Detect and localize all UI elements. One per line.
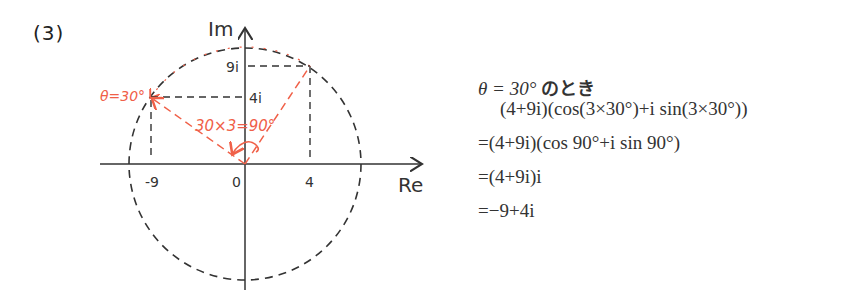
tick-label-origin: 0 — [232, 174, 241, 190]
vector-4-9i — [245, 66, 310, 164]
step-2: =(4+9i)(cos 90°+i sin 90°) — [478, 132, 680, 154]
tick-label-neg9: -9 — [145, 174, 159, 190]
rotation-annotation: 30×3=90° — [195, 117, 275, 135]
condition-heading: θ = 30° のとき — [478, 74, 595, 100]
step-4-result: =−9+4i — [478, 200, 534, 222]
condition-jp: のとき — [541, 78, 595, 99]
tick-label-4i: 4i — [249, 90, 262, 106]
axis-label-im: Im — [208, 17, 233, 41]
step-3: =(4+9i)i — [478, 166, 542, 188]
complex-plane-diagram: Im Re 9i 4i -9 0 4 θ=30° 30×3=90° — [0, 0, 842, 296]
axis-label-re: Re — [398, 173, 423, 197]
tick-label-9i: 9i — [226, 59, 239, 75]
step-1: (4+9i)(cos(3×30°)+i sin(3×30°)) — [500, 98, 747, 120]
theta-annotation: θ=30° — [100, 88, 145, 104]
tick-label-4: 4 — [305, 174, 314, 190]
condition-math: θ = 30° — [478, 78, 536, 99]
